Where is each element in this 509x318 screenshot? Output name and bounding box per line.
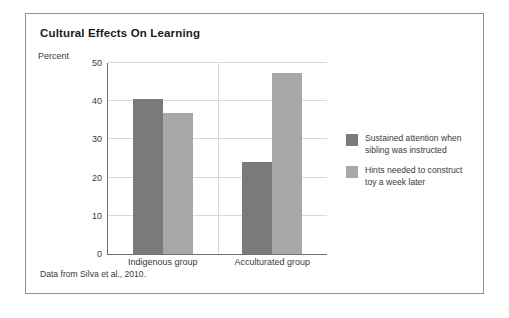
source-note: Data from Silva et al., 2010. [40, 269, 146, 279]
y-axis-tick-label: 20 [92, 173, 102, 183]
legend-swatch-icon [346, 134, 358, 146]
bar [163, 113, 193, 254]
x-axis-line [107, 254, 327, 255]
chart-figure: Cultural Effects On Learning Percent 010… [25, 13, 484, 294]
page-title: Cultural Effects On Learning [40, 27, 200, 39]
y-axis-line [107, 63, 108, 254]
y-axis-tick-label: 30 [92, 134, 102, 144]
legend-item: Sustained attention when sibling was ins… [346, 133, 476, 156]
plot-area [108, 63, 327, 254]
y-axis-title: Percent [38, 51, 69, 61]
y-axis-tick-label: 10 [92, 211, 102, 221]
y-axis-tick-label: 0 [97, 249, 102, 259]
bar [242, 162, 272, 254]
bar [272, 73, 302, 254]
legend-label: Hints needed to construct toy a week lat… [365, 165, 476, 188]
legend-swatch-icon [346, 166, 358, 178]
chart-legend: Sustained attention when sibling was ins… [346, 133, 476, 197]
x-axis-category-label: Indigenous group [128, 257, 198, 267]
bar [133, 99, 163, 254]
y-axis-tick-labels: 01020304050 [64, 63, 102, 254]
group-separator [218, 63, 219, 254]
legend-label: Sustained attention when sibling was ins… [365, 133, 476, 156]
y-axis-tick-label: 50 [92, 58, 102, 68]
x-axis-category-label: Acculturated group [234, 257, 310, 267]
legend-item: Hints needed to construct toy a week lat… [346, 165, 476, 188]
y-axis-tick-label: 40 [92, 96, 102, 106]
